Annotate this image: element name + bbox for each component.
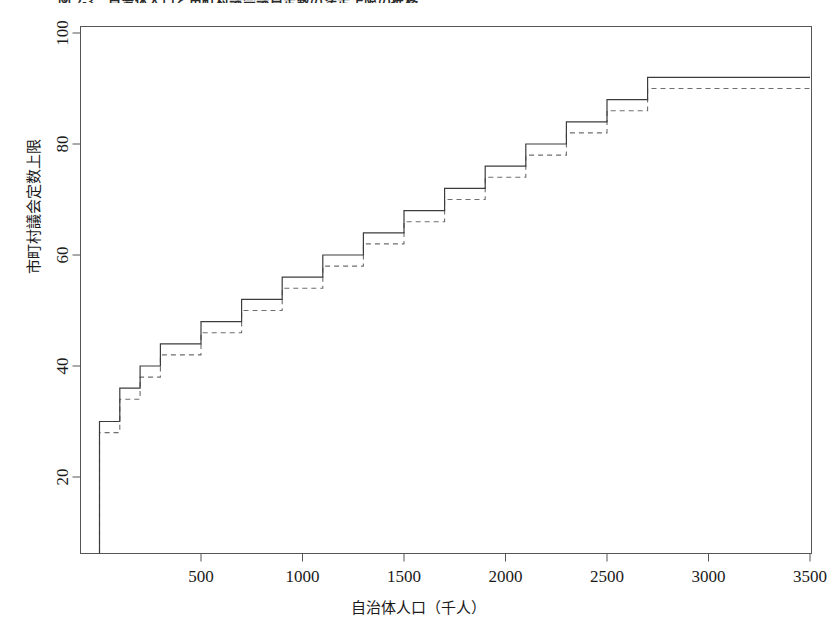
x-tick-label: 2500: [590, 567, 624, 586]
figure-container: 図 2-3 自治体人口と市町村議会議員定数の法定上限の推移 5001000150…: [0, 0, 837, 628]
x-axis-title: 自治体人口（千人）: [0, 596, 837, 617]
series-solid-step: [100, 77, 811, 553]
y-tick-label: 20: [53, 469, 72, 486]
x-tick-label: 1000: [286, 567, 320, 586]
y-axis-title: 市町村議会定数上限: [22, 97, 43, 317]
x-tick-label: 500: [188, 567, 214, 586]
y-tick-label: 100: [53, 20, 72, 46]
x-tick-label: 1500: [387, 567, 421, 586]
plot-frame: [81, 27, 812, 554]
x-tick-label: 2000: [489, 567, 523, 586]
y-axis-ticks: 20406080100: [53, 20, 81, 485]
y-tick-label: 40: [53, 358, 72, 375]
x-axis-ticks: 500100015002000250030003500: [188, 554, 827, 586]
x-tick-label: 3500: [793, 567, 827, 586]
chart-plot: 500100015002000250030003500 20406080100: [0, 0, 837, 628]
y-tick-label: 60: [53, 247, 72, 264]
y-tick-label: 80: [53, 136, 72, 153]
x-tick-label: 3000: [692, 567, 726, 586]
